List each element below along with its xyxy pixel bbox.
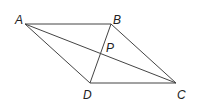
vertex-label-a: A (14, 13, 23, 27)
segment-da (25, 24, 90, 83)
vertex-label-c: C (177, 88, 186, 102)
vertex-label-d: D (83, 88, 92, 102)
diagram-canvas: A B P D C (0, 0, 201, 104)
segment-bc (111, 24, 176, 83)
intersection-label-p: P (106, 41, 114, 55)
parallelogram-diagram: A B P D C (0, 0, 201, 104)
vertex-label-b: B (113, 13, 121, 27)
